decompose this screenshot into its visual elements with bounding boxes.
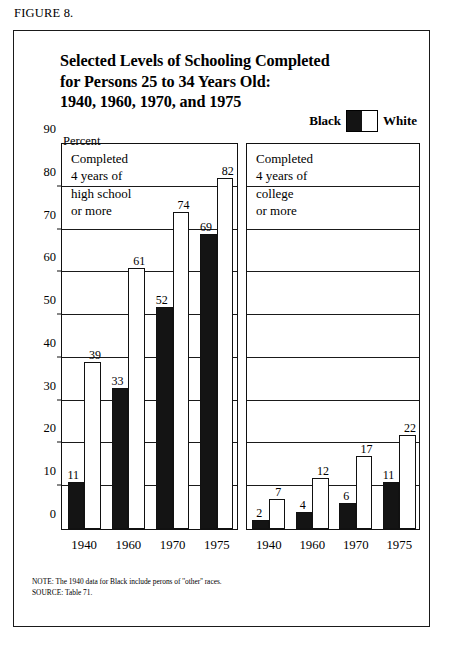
bar-white-1975: 22 <box>399 435 415 529</box>
y-axis-tick-mark <box>57 485 62 486</box>
gridline <box>247 271 419 272</box>
bar-black-1975: 69 <box>200 234 217 529</box>
y-axis-tick-label: 40 <box>44 335 57 350</box>
bar-white-1970: 17 <box>356 456 372 529</box>
annotation-line-1: Completed <box>256 150 313 167</box>
annotation-line-2: 4 years of <box>256 167 313 184</box>
figure-frame: Selected Levels of Schooling Completed f… <box>13 30 430 627</box>
bar-value-label: 52 <box>156 294 168 306</box>
annotation-line-4: or more <box>71 202 131 219</box>
bar-value-label: 6 <box>343 490 349 502</box>
gridline <box>247 400 419 401</box>
y-axis-tick-label: 20 <box>44 421 57 436</box>
y-axis-tick-label: 0 <box>50 507 56 522</box>
y-axis-tick-label: 70 <box>44 207 57 222</box>
chart-panel-college: Completed 4 years of college or more 271… <box>246 143 420 530</box>
x-axis-tick-label-1960: 1960 <box>299 538 325 553</box>
bar-value-label: 69 <box>200 221 212 233</box>
bar-black-1960: 4 <box>296 512 312 529</box>
legend-swatch-white <box>362 111 377 131</box>
x-axis-tick-label-1940: 1940 <box>256 538 282 553</box>
bar-value-label: 11 <box>68 469 80 481</box>
gridline <box>247 357 419 358</box>
bar-value-label: 11 <box>383 469 395 481</box>
legend-label-white: White <box>383 113 417 129</box>
x-axis-tick-label-1960: 1960 <box>116 538 142 553</box>
annotation-line-3: college <box>256 185 313 202</box>
x-axis-tick-label-1970: 1970 <box>343 538 369 553</box>
x-axis-tick-label-1975: 1975 <box>204 538 230 553</box>
gridline <box>247 314 419 315</box>
bar-white-1975: 82 <box>217 178 234 529</box>
bar-white-1960: 61 <box>128 268 145 529</box>
y-axis-tick-label: 80 <box>44 164 57 179</box>
bar-white-1940: 7 <box>269 499 285 529</box>
legend-swatch-icon <box>346 110 378 132</box>
bar-value-label: 61 <box>133 255 145 267</box>
chart-panel-high-school: Completed 4 years of high school or more… <box>61 143 238 530</box>
chart-title: Selected Levels of Schooling Completed f… <box>60 51 410 113</box>
bar-value-label: 22 <box>404 422 416 434</box>
footnote-note: NOTE: The 1940 data for Black include pe… <box>32 576 222 587</box>
chart-title-line-2: for Persons 25 to 34 Years Old: <box>60 72 410 93</box>
bar-black-1960: 33 <box>112 388 129 529</box>
footnotes: NOTE: The 1940 data for Black include pe… <box>32 576 222 598</box>
bar-value-label: 39 <box>89 349 101 361</box>
bar-white-1970: 74 <box>173 212 190 529</box>
bar-value-label: 4 <box>300 499 306 511</box>
annotation-line-2: 4 years of <box>71 167 131 184</box>
y-axis-tick-mark <box>57 228 62 229</box>
y-axis-tick-label: 60 <box>44 250 57 265</box>
y-axis-tick-label: 50 <box>44 293 57 308</box>
bar-black-1970: 6 <box>339 503 355 529</box>
x-axis-tick-label-1975: 1975 <box>386 538 412 553</box>
bar-black-1975: 11 <box>383 482 399 529</box>
gridline <box>247 229 419 230</box>
y-axis-tick-label: 30 <box>44 378 57 393</box>
bar-value-label: 12 <box>317 465 329 477</box>
bar-value-label: 2 <box>256 507 262 519</box>
legend-swatch-black <box>347 111 362 131</box>
chart-title-line-1: Selected Levels of Schooling Completed <box>60 51 410 72</box>
x-axis-tick-label-1940: 1940 <box>71 538 97 553</box>
y-axis-tick-label: 90 <box>44 122 57 137</box>
bar-value-label: 33 <box>111 375 123 387</box>
y-axis-tick-label: 10 <box>44 464 57 479</box>
bar-black-1940: 11 <box>68 482 85 529</box>
y-axis-tick-mark <box>57 442 62 443</box>
bar-black-1940: 2 <box>252 520 268 529</box>
y-axis-tick-mark <box>57 185 62 186</box>
bar-value-label: 17 <box>361 443 373 455</box>
annotation-line-4: or more <box>256 202 313 219</box>
bar-white-1960: 12 <box>312 478 328 529</box>
y-axis-tick-mark <box>57 356 62 357</box>
annotation-line-1: Completed <box>71 150 131 167</box>
bar-value-label: 74 <box>178 199 190 211</box>
footnote-source: SOURCE: Table 71. <box>32 587 222 598</box>
bar-black-1970: 52 <box>156 307 173 529</box>
bar-value-label: 7 <box>275 486 281 498</box>
y-axis-tick-mark <box>57 271 62 272</box>
y-axis-tick-mark <box>57 314 62 315</box>
legend: Black White <box>309 110 417 132</box>
bar-value-label: 82 <box>222 165 234 177</box>
gridline <box>247 186 419 187</box>
figure-caption: FIGURE 8. <box>14 6 73 21</box>
x-axis-tick-label-1970: 1970 <box>160 538 186 553</box>
bar-white-1940: 39 <box>84 362 101 529</box>
legend-label-black: Black <box>309 113 341 129</box>
annotation-high-school: Completed 4 years of high school or more <box>71 150 131 219</box>
y-axis-tick-mark <box>57 399 62 400</box>
annotation-line-3: high school <box>71 185 131 202</box>
annotation-college: Completed 4 years of college or more <box>256 150 313 219</box>
